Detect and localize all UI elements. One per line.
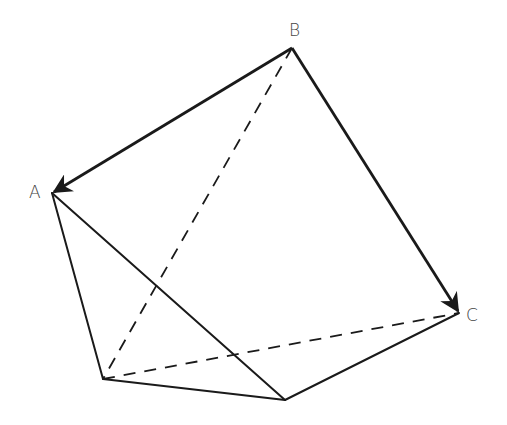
edge-a-d: [52, 193, 103, 379]
edge-e-c: [285, 313, 459, 400]
dashed-edge-b-d: [103, 48, 292, 379]
label-a: A: [29, 182, 41, 202]
vector-b-to-c: [292, 48, 458, 311]
polyhedron-diagram: B A C: [0, 0, 507, 425]
edge-d-e: [103, 379, 285, 400]
edge-a-e: [52, 193, 285, 400]
vector-b-to-a: [54, 48, 292, 192]
label-b: B: [289, 20, 300, 40]
label-c: C: [466, 305, 478, 325]
dashed-edge-d-c: [103, 313, 459, 379]
